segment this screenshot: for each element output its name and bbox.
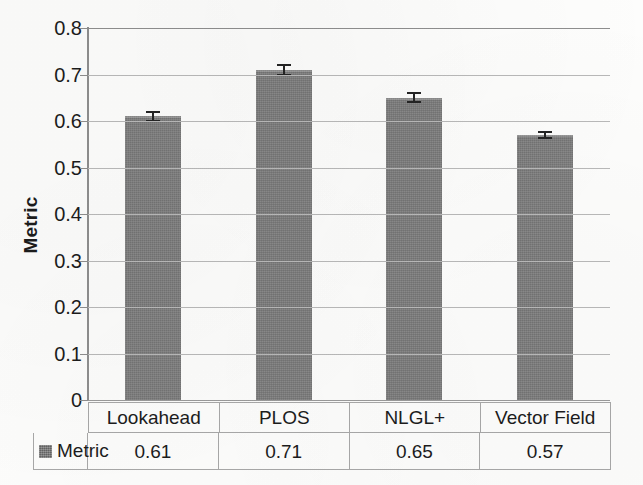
- data-table-value-cell: 0.61: [88, 433, 219, 470]
- gridline: [88, 307, 610, 308]
- legend-swatch-icon: [39, 445, 52, 458]
- error-bar-cap-lower: [407, 101, 421, 103]
- plot-area: [88, 28, 610, 400]
- data-table-value-cell: 0.71: [219, 433, 350, 470]
- data-table-category-cell: NLGL+: [350, 402, 481, 433]
- data-table-value-cell: 0.57: [480, 433, 611, 470]
- data-table-header-row: LookaheadPLOSNLGL+Vector Field: [33, 402, 611, 433]
- y-axis-tick-labels: 0.80.70.60.50.40.30.20.10: [46, 28, 82, 400]
- y-axis-tick-label: 0.8: [54, 17, 82, 40]
- data-table-value-cell: 0.65: [350, 433, 481, 470]
- data-table-category-cell: Lookahead: [88, 402, 220, 433]
- error-bar: [407, 92, 421, 103]
- y-axis-tick-label: 0.1: [54, 342, 82, 365]
- y-axis-tick-mark: [80, 400, 88, 401]
- bar: [256, 70, 312, 400]
- gridline: [88, 28, 610, 29]
- bar: [517, 135, 573, 400]
- gridline: [88, 354, 610, 355]
- y-axis-tick-label: 0.6: [54, 110, 82, 133]
- data-table-category-cell: Vector Field: [481, 402, 612, 433]
- gridline: [88, 168, 610, 169]
- y-axis-tick-label: 0.2: [54, 296, 82, 319]
- y-axis-tick-mark: [80, 354, 88, 355]
- error-bar: [538, 131, 552, 138]
- gridline: [88, 75, 610, 76]
- gridline: [88, 261, 610, 262]
- y-axis-tick-label: 0.4: [54, 203, 82, 226]
- gridline: [88, 400, 610, 401]
- y-axis-tick-label: 0.7: [54, 63, 82, 86]
- data-table: LookaheadPLOSNLGL+Vector Field Metric 0.…: [33, 402, 611, 470]
- gridline: [88, 214, 610, 215]
- bar: [125, 116, 181, 400]
- y-axis-tick-label: 0.3: [54, 249, 82, 272]
- gridline: [88, 121, 610, 122]
- legend-entry-metric: Metric: [33, 433, 88, 470]
- error-bar-cap-lower: [538, 137, 552, 139]
- y-axis-tick-mark: [80, 75, 88, 76]
- chart-figure: Metric 0.80.70.60.50.40.30.20.10 Lookahe…: [0, 0, 643, 485]
- y-axis-tick-mark: [80, 121, 88, 122]
- y-axis-title-text: Metric: [20, 196, 42, 253]
- y-axis-tick-label: 0.5: [54, 156, 82, 179]
- y-axis-tick-mark: [80, 307, 88, 308]
- data-table-value-row: Metric 0.610.710.650.57: [33, 433, 611, 470]
- data-table-category-cell: PLOS: [220, 402, 351, 433]
- y-axis-tick-mark: [80, 214, 88, 215]
- y-axis-tick-mark: [80, 28, 88, 29]
- bar: [386, 98, 442, 400]
- y-axis-tick-mark: [80, 261, 88, 262]
- y-axis-tick-mark: [80, 168, 88, 169]
